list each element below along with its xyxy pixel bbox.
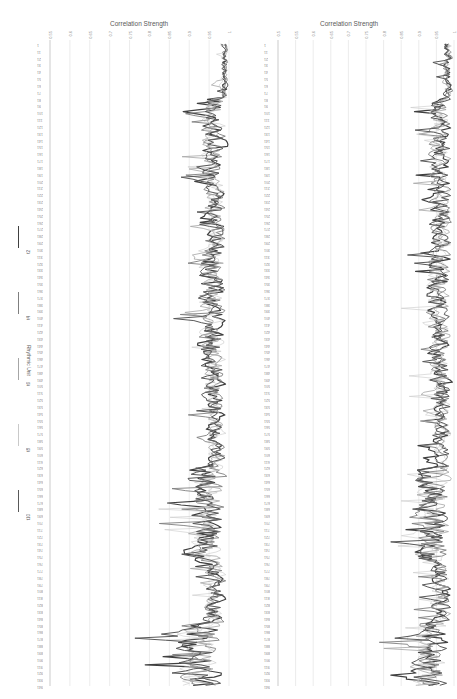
y-tick-label: 311 xyxy=(264,254,270,258)
y-tick-label: 301 xyxy=(37,247,43,251)
y-tick-label: 741 xyxy=(264,547,270,551)
y-tick-label: 231 xyxy=(264,199,270,203)
y-tick-label: 521 xyxy=(264,397,270,401)
y-tick-label: 771 xyxy=(37,568,43,572)
y-tick-label: 281 xyxy=(264,233,270,237)
y-tick-label: 731 xyxy=(37,541,43,545)
y-tick-label: 811 xyxy=(37,595,43,599)
y-tick-label: 171 xyxy=(264,158,270,162)
y-tick-label: 661 xyxy=(37,493,43,497)
y-tick-label: 831 xyxy=(37,609,43,613)
y-tick-label: 381 xyxy=(264,302,270,306)
y-tick-label: 781 xyxy=(264,575,270,579)
y-tick-label: 611 xyxy=(264,459,270,463)
x-tick-label: 0.8 xyxy=(147,31,152,37)
y-tick-label: 211 xyxy=(37,185,43,189)
y-tick-label: 881 xyxy=(37,643,43,647)
y-tick-label: 621 xyxy=(37,465,43,469)
y-tick-label: 1 xyxy=(37,42,39,46)
y-tick-label: 841 xyxy=(37,616,43,620)
y-tick-label: 241 xyxy=(37,206,43,210)
y-tick-label: 851 xyxy=(37,623,43,627)
y-tick-label: 751 xyxy=(264,554,270,558)
y-tick-label: 301 xyxy=(264,247,270,251)
y-tick-label: 651 xyxy=(37,486,43,490)
y-tick-label: 161 xyxy=(264,151,270,155)
y-tick-label: 11 xyxy=(264,49,268,53)
y-tick-label: 721 xyxy=(37,534,43,538)
y-tick-label: 261 xyxy=(264,220,270,224)
y-tick-label: 381 xyxy=(37,302,43,306)
y-tick-label: 291 xyxy=(264,240,270,244)
y-tick-label: 751 xyxy=(37,554,43,558)
x-tick-label: 0.9 xyxy=(187,31,192,37)
y-tick-label: 21 xyxy=(264,56,268,60)
x-tick-label: 0.65 xyxy=(329,31,334,39)
y-tick-label: 291 xyxy=(37,240,43,244)
y-tick-label: 581 xyxy=(37,438,43,442)
y-tick-label: 941 xyxy=(264,684,270,688)
y-tick-label: 1 xyxy=(264,42,266,46)
chart-right: Correlation Strength 10.950.90.850.80.75… xyxy=(228,0,457,699)
y-tick-label: 271 xyxy=(264,226,270,230)
y-tick-label: 541 xyxy=(264,411,270,415)
y-tick-label: 441 xyxy=(264,343,270,347)
x-tick-label: 0.9 xyxy=(417,31,422,37)
y-tick-label: 501 xyxy=(37,383,43,387)
y-tick-label: 471 xyxy=(264,363,270,367)
y-tick-label: 511 xyxy=(264,390,270,394)
x-tick-label: 0.55 xyxy=(48,31,53,39)
y-tick-label: 711 xyxy=(37,527,43,531)
y-tick-label: 931 xyxy=(264,677,270,681)
y-tick-label: 911 xyxy=(37,664,43,668)
y-tick-label: 231 xyxy=(37,199,43,203)
y-tick-label: 611 xyxy=(37,459,43,463)
y-tick-label: 671 xyxy=(264,500,270,504)
y-tick-label: 551 xyxy=(264,418,270,422)
x-tick-label: 0.95 xyxy=(207,31,212,39)
y-tick-label: 191 xyxy=(37,172,43,176)
y-tick-label: 41 xyxy=(37,69,41,73)
y-tick-label: 591 xyxy=(264,445,270,449)
chart-title: Correlation Strength xyxy=(110,20,168,27)
y-tick-label: 261 xyxy=(37,220,43,224)
y-tick-label: 801 xyxy=(264,588,270,592)
y-tick-label: 441 xyxy=(37,343,43,347)
y-tick-label: 371 xyxy=(37,295,43,299)
y-tick-label: 181 xyxy=(264,165,270,169)
y-tick-label: 921 xyxy=(37,670,43,674)
y-tick-label: 251 xyxy=(37,213,43,217)
y-tick-label: 561 xyxy=(264,424,270,428)
y-tick-label: 651 xyxy=(264,486,270,490)
y-tick-label: 461 xyxy=(264,356,270,360)
y-tick-label: 281 xyxy=(37,233,43,237)
y-tick-label: 221 xyxy=(264,192,270,196)
y-tick-label: 731 xyxy=(264,541,270,545)
y-tick-label: 21 xyxy=(37,56,41,60)
x-tick-label: 0.85 xyxy=(167,31,172,39)
y-tick-label: 821 xyxy=(264,602,270,606)
y-tick-label: 31 xyxy=(37,62,41,66)
x-tick-label: 0.95 xyxy=(434,31,439,39)
y-tick-label: 361 xyxy=(37,288,43,292)
y-tick-label: 191 xyxy=(264,172,270,176)
y-tick-label: 421 xyxy=(37,329,43,333)
y-tick-label: 571 xyxy=(264,431,270,435)
y-tick-label: 661 xyxy=(264,493,270,497)
y-tick-label: 501 xyxy=(264,383,270,387)
y-tick-label: 901 xyxy=(264,657,270,661)
y-tick-label: 891 xyxy=(264,650,270,654)
y-tick-label: 431 xyxy=(264,336,270,340)
y-tick-label: 631 xyxy=(37,472,43,476)
x-tick-label: 0.6 xyxy=(68,31,73,37)
y-tick-label: 601 xyxy=(37,452,43,456)
y-tick-label: 131 xyxy=(264,131,270,135)
y-tick-label: 701 xyxy=(37,520,43,524)
x-tick-label: 1 xyxy=(452,31,457,33)
y-tick-label: 331 xyxy=(37,267,43,271)
y-tick-label: 411 xyxy=(37,322,43,326)
y-tick-label: 91 xyxy=(37,103,41,107)
y-tick-label: 871 xyxy=(37,636,43,640)
y-tick-label: 41 xyxy=(264,69,268,73)
y-tick-label: 201 xyxy=(37,179,43,183)
